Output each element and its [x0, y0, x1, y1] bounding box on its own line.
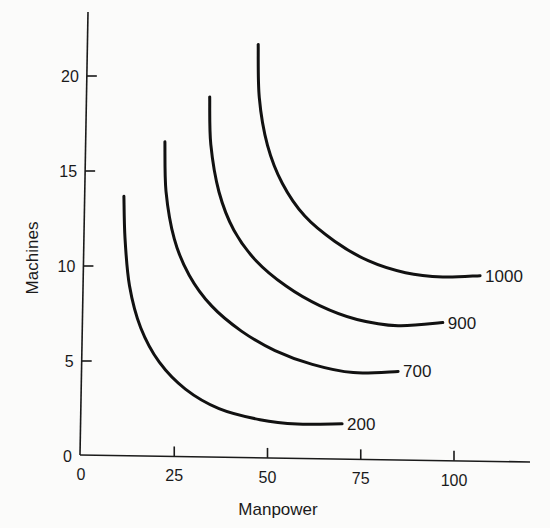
y-tick-label: 0: [63, 448, 72, 465]
curve-label-900: 900: [448, 314, 476, 333]
x-tick-label: 50: [259, 469, 277, 486]
x-tick-label: 75: [352, 470, 370, 487]
curve-label-700: 700: [403, 362, 431, 381]
y-axis-title: Machines: [23, 222, 42, 295]
x-tick-label: 0: [77, 466, 86, 483]
x-axis-ticks: 0255075100: [77, 446, 468, 488]
y-axis-ticks: 05101520: [58, 68, 97, 465]
x-axis-line: [80, 455, 530, 462]
y-tick-label: 15: [59, 163, 77, 180]
curve-label-200: 200: [347, 415, 375, 434]
isoquant-chart: 05101520 0255075100 2007009001000 Manpow…: [0, 0, 550, 528]
curve-label-1000: 1000: [485, 267, 523, 286]
x-tick-label: 100: [441, 472, 468, 489]
axes: [80, 12, 530, 462]
x-axis-title: Manpower: [238, 500, 318, 519]
isoquant-curve-900: [210, 97, 443, 326]
isoquant-curve-1000: [258, 44, 480, 277]
y-axis-line: [80, 12, 88, 455]
x-tick-label: 25: [165, 467, 183, 484]
y-tick-label: 20: [61, 68, 79, 85]
y-tick-label: 10: [58, 258, 76, 275]
y-tick-label: 5: [65, 353, 74, 370]
isoquant-curves: 2007009001000: [124, 44, 523, 433]
